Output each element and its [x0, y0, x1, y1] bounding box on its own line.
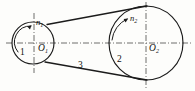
- driven-center-label: O2: [149, 43, 159, 54]
- driven-speed-label: n2: [130, 13, 137, 24]
- driver-pulley-label: 1: [20, 47, 25, 57]
- driven-center-subscript: 2: [156, 48, 159, 54]
- driver-speed-subscript: 1: [40, 22, 43, 28]
- driven-rotation-arrow: [112, 19, 127, 40]
- belt-drive-svg: 1 2 3 O1 O2 n1 n2: [0, 0, 195, 91]
- driver-center-label: O1: [38, 43, 48, 54]
- belt-label: 3: [78, 60, 83, 70]
- driven-pulley-label: 2: [117, 54, 122, 64]
- driver-speed-label: n1: [36, 17, 43, 28]
- driver-center-subscript: 1: [45, 48, 48, 54]
- belt-drive-diagram: 1 2 3 O1 O2 n1 n2: [0, 0, 195, 91]
- driven-speed-subscript: 2: [134, 18, 137, 24]
